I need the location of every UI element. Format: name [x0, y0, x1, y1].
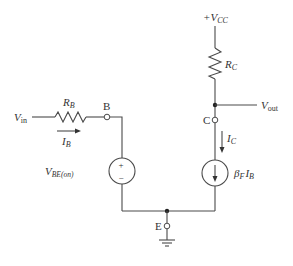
ic-arrow-icon [220, 147, 225, 153]
vbe-plus-sign: + [119, 160, 124, 170]
base-label: B [103, 100, 110, 112]
vbe-label: VBE(on) [45, 165, 74, 179]
base-node [104, 114, 110, 120]
vin-label: Vin [14, 111, 27, 125]
collector-label: C [203, 114, 210, 126]
ground-icon [159, 240, 175, 246]
vbe-minus-sign: − [119, 173, 124, 183]
vcc-label: +VCC [203, 11, 228, 25]
base-wire [110, 117, 122, 158]
ib-label: IB [61, 135, 71, 149]
ib-arrow-icon [75, 129, 81, 134]
emitter-node [164, 223, 170, 229]
resistor-rc [209, 48, 221, 79]
current-source-label: βFIB [233, 167, 254, 181]
vout-label: Vout [261, 99, 279, 113]
ic-label: IC [226, 132, 237, 146]
rb-label: RB [62, 96, 75, 110]
resistor-rb [55, 112, 86, 122]
emitter-label: E [155, 220, 162, 232]
collector-node [212, 117, 218, 123]
circuit-diagram: +VCC RC Vout C IC βFIB Vin RB IB B + − V… [0, 0, 293, 266]
rc-label: RC [224, 58, 238, 72]
